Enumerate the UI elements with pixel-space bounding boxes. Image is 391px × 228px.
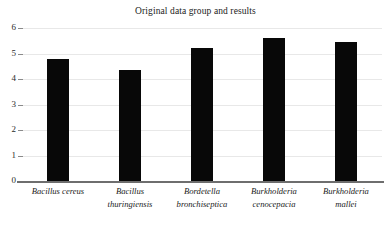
y-tick-label-4: 4 xyxy=(0,74,16,83)
bar-bacillus-thuringiensis xyxy=(119,70,141,181)
chart-title: Original data group and results xyxy=(0,6,391,16)
x-label-line: mallei xyxy=(310,198,382,211)
x-label-bacillus-cereus: Bacillus cereus xyxy=(22,185,94,198)
bars-layer xyxy=(22,28,382,181)
y-tick-label-6: 6 xyxy=(0,23,16,32)
bar-chart-figure: Original data group and results 6 5 4 3 … xyxy=(0,0,391,228)
bar-bordetella-bronchiseptica xyxy=(191,48,213,181)
x-label-line: cenocepacia xyxy=(238,198,310,211)
bar-slot-4 xyxy=(310,28,382,181)
x-label-line: Bacillus cereus xyxy=(22,185,94,198)
y-tick-label-0: 0 xyxy=(0,176,16,185)
bar-slot-0 xyxy=(22,28,94,181)
bar-slot-1 xyxy=(94,28,166,181)
bar-burkholderia-mallei xyxy=(335,42,357,181)
x-label-line: thuringiensis xyxy=(94,198,166,211)
bar-bacillus-cereus xyxy=(47,59,69,181)
y-tick-label-1: 1 xyxy=(0,151,16,160)
x-label-burkholderia-cenocepacia: Burkholderia cenocepacia xyxy=(238,185,310,210)
x-label-line: Bacillus xyxy=(94,185,166,198)
x-label-line: Burkholderia xyxy=(238,185,310,198)
x-label-line: bronchiseptica xyxy=(166,198,238,211)
x-label-bordetella-bronchiseptica: Bordetella bronchiseptica xyxy=(166,185,238,210)
bar-slot-3 xyxy=(238,28,310,181)
x-label-line: Burkholderia xyxy=(310,185,382,198)
x-label-burkholderia-mallei: Burkholderia mallei xyxy=(310,185,382,210)
x-axis-labels: Bacillus cereus Bacillus thuringiensis B… xyxy=(22,185,382,227)
y-tick-label-2: 2 xyxy=(0,125,16,134)
x-label-line: Bordetella xyxy=(166,185,238,198)
x-label-bacillus-thuringiensis: Bacillus thuringiensis xyxy=(94,185,166,210)
bar-burkholderia-cenocepacia xyxy=(263,38,285,181)
y-tick-label-3: 3 xyxy=(0,100,16,109)
bar-slot-2 xyxy=(166,28,238,181)
x-axis-line xyxy=(17,181,384,183)
y-tick-label-5: 5 xyxy=(0,49,16,58)
